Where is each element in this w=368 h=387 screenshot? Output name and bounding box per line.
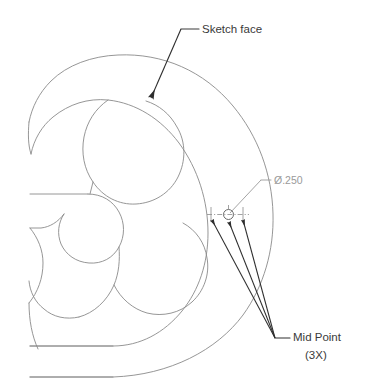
inner-lobe-upper <box>83 100 184 204</box>
mid-point-arrow-2 <box>229 222 275 338</box>
diameter-leader <box>230 180 271 213</box>
diameter-label: Ø.250 <box>274 174 303 186</box>
lower-lobe-bulb <box>114 223 208 315</box>
mid-point-label: Mid Point <box>293 331 342 343</box>
keyhole-bulb <box>59 194 124 263</box>
inner-connector-upper <box>90 182 93 194</box>
diameter-leader-line <box>230 180 261 213</box>
bottom-inner-edge <box>29 303 38 349</box>
sketch-face-label: Sketch face <box>202 23 262 35</box>
mid-point-arrow-1 <box>212 220 275 338</box>
inner-lobe-lower <box>79 247 119 317</box>
drawing-svg: Sketch face Ø.250 Mid Point (3X) <box>0 0 368 387</box>
sketch-face-leader-line <box>151 29 181 98</box>
mid-point-count-label: (3X) <box>305 349 327 361</box>
part-geometry <box>28 55 273 377</box>
mid-point-leaders <box>212 220 290 338</box>
hole-feature <box>207 205 249 222</box>
outer-contour-upper-left <box>28 122 31 154</box>
mid-point-arrow-3 <box>243 220 275 338</box>
inner-lobe-lower-2 <box>29 281 79 318</box>
technical-drawing-canvas: Sketch face Ø.250 Mid Point (3X) <box>0 0 368 387</box>
